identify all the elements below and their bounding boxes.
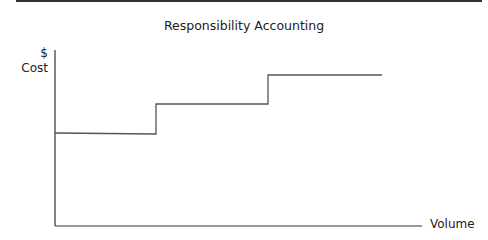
chart-plot bbox=[0, 0, 488, 240]
step-cost-line bbox=[55, 75, 382, 134]
